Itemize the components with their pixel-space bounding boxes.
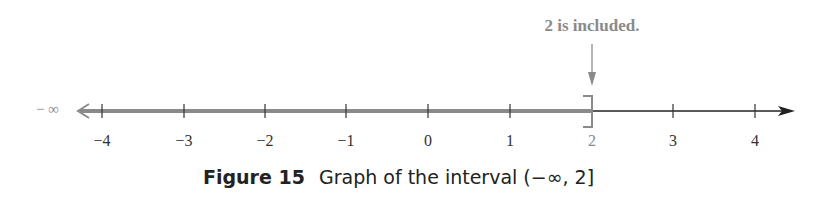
figure-label: Figure 15 (203, 166, 305, 188)
neg-infinity-label: − ∞ (36, 101, 59, 118)
annotation-label: 2 is included. (545, 16, 640, 36)
tick-label: 1 (506, 132, 514, 150)
tick-label: −1 (337, 132, 354, 150)
tick-label: 4 (751, 132, 759, 150)
down-arrow-icon (588, 72, 596, 86)
tick-label: 0 (424, 132, 432, 150)
tick-label: 2 (588, 132, 596, 150)
caption-text: Graph of the interval (−∞, 2] (319, 166, 594, 188)
tick-label: −2 (256, 132, 273, 150)
tick-label: −3 (175, 132, 192, 150)
figure-caption: Figure 15 Graph of the interval (−∞, 2] (203, 166, 594, 188)
tick-label: −4 (93, 132, 110, 150)
tick-label: 3 (669, 132, 677, 150)
